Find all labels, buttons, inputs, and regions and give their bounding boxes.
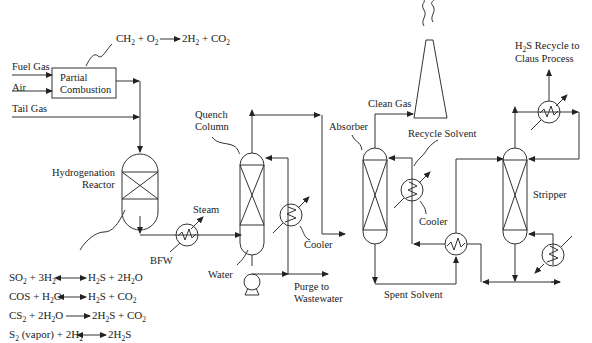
water-label: Water (208, 269, 233, 280)
water-callout (237, 250, 248, 265)
process-flow-diagram: Fuel Gas Air Tail Gas Partial Combustion… (0, 0, 592, 343)
reaction-4-lhs: S2 (vapor) + 2H2 (9, 328, 83, 343)
reaction-1-rhs: H2S + 2H2O (88, 271, 143, 286)
reaction-1-lhs: SO2 + 3H2 (9, 271, 56, 286)
stack (414, 0, 447, 118)
reaction-2-rhs: H2S + CO2 (88, 290, 137, 305)
absorber-label: Absorber (329, 121, 369, 132)
hydrogenation-reactions: SO2 + 3H2 H2S + 2H2O COS + H2O H2S + CO2… (9, 271, 146, 343)
absorber (363, 148, 387, 244)
combustion-reaction: CH2 + O2 2H2 + CO2 (116, 32, 230, 47)
h2s-recycle-label-2: Claus Process (515, 53, 574, 64)
partial-combustion-label-2: Combustion (60, 84, 112, 95)
svg-text:2H2 + CO2: 2H2 + CO2 (182, 32, 230, 47)
h2s-recycle-label-1: H2S Recycle to (515, 40, 579, 54)
quench-label-1: Quench (195, 109, 228, 120)
partial-combustion-label-1: Partial (60, 72, 87, 83)
reaction-2-lhs: COS + H2O (9, 290, 62, 305)
stripper (503, 148, 527, 244)
purge-label-1: Purge to (294, 281, 329, 292)
quench-cooler (273, 197, 309, 233)
reactor-callout (80, 210, 125, 250)
recycle-solvent-label: Recycle Solvent (408, 128, 477, 139)
stripper-label: Stripper (533, 189, 567, 200)
absorber-cooler-label: Cooler (419, 216, 448, 227)
combustion-callout (86, 44, 112, 66)
quench-label-2: Column (195, 121, 230, 132)
quench-callout (212, 137, 240, 154)
input-labels: Fuel Gas Air Tail Gas (12, 61, 50, 114)
absorber-callout (352, 135, 362, 150)
reactor-label-2: Reactor (82, 179, 115, 190)
lean-rich-exchanger (445, 233, 467, 255)
reactor-label-1: Hydrogenation (52, 167, 116, 178)
bfw-label: BFW (150, 255, 173, 266)
quench-column (240, 153, 264, 255)
tail-gas-label: Tail Gas (12, 103, 47, 114)
svg-text:CH2 + O2: CH2 + O2 (116, 32, 159, 47)
steam-label: Steam (193, 204, 219, 215)
reaction-3-lhs: CS2 + 2H2O (9, 309, 63, 324)
reaction-4-rhs: 2H2S (108, 328, 131, 343)
quench-cooler-label: Cooler (304, 239, 333, 250)
clean-gas-label: Clean Gas (368, 98, 411, 109)
absorber-cooler-callout (420, 201, 426, 214)
water-pump (244, 274, 260, 295)
fuel-gas-label: Fuel Gas (12, 61, 50, 72)
quench-cooler-callout (300, 226, 310, 240)
recycle-solvent-callout (414, 140, 438, 166)
purge-label-2: Wastewater (294, 293, 343, 304)
spent-solvent-label: Spent Solvent (384, 289, 443, 300)
reaction-3-rhs: 2H2S + CO2 (92, 309, 146, 324)
